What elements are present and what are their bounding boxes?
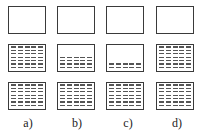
container-d-row-1 (156, 6, 194, 34)
liquid-fill (109, 83, 141, 107)
liquid-fill (109, 62, 141, 69)
liquid-fill (11, 83, 43, 107)
container-c-row-2 (106, 44, 144, 72)
label-c: c) (118, 116, 138, 131)
liquid-fill (11, 45, 43, 69)
container-b-row-2 (57, 44, 95, 72)
container-b-row-1 (57, 6, 95, 34)
label-b: b) (67, 116, 87, 131)
container-d-row-2 (156, 44, 194, 72)
liquid-fill (159, 83, 191, 107)
container-d-row-3 (156, 82, 194, 110)
container-c-row-1 (106, 6, 144, 34)
liquid-fill (60, 83, 92, 107)
container-b-row-3 (57, 82, 95, 110)
container-a-row-1 (8, 6, 46, 34)
label-d: d) (167, 116, 187, 131)
liquid-fill (60, 55, 92, 69)
container-c-row-3 (106, 82, 144, 110)
container-a-row-3 (8, 82, 46, 110)
label-a: a) (18, 116, 38, 131)
container-a-row-2 (8, 44, 46, 72)
liquid-fill (159, 45, 191, 69)
